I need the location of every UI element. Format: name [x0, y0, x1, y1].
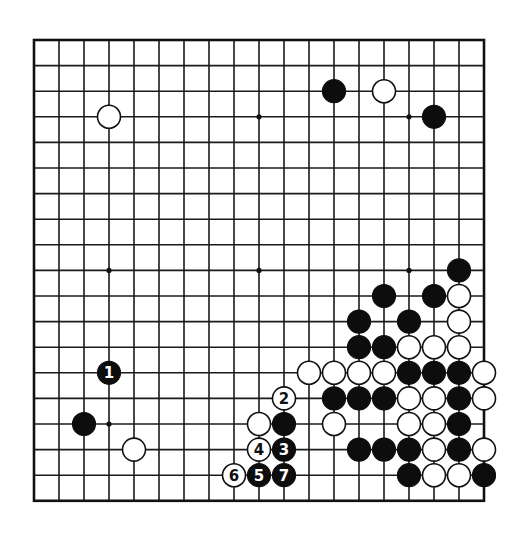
black-stone: [448, 438, 471, 461]
black-stone: [373, 387, 396, 410]
move-number-label: 4: [254, 441, 264, 459]
white-stone: [298, 361, 321, 384]
move-number-label: 1: [104, 364, 114, 382]
black-stone: [348, 387, 371, 410]
white-stone: [373, 361, 396, 384]
star-point: [256, 268, 261, 273]
black-stone: [448, 259, 471, 282]
white-stone: [123, 438, 146, 461]
go-board: 1234567: [0, 0, 531, 539]
black-stone: [398, 438, 421, 461]
move-number-label: 5: [254, 467, 264, 485]
white-stone: [398, 413, 421, 436]
white-stone: [448, 336, 471, 359]
move-number-label: 2: [279, 390, 289, 408]
black-stone: [373, 438, 396, 461]
white-stone: [448, 464, 471, 487]
black-stone: [73, 413, 96, 436]
white-stone: [423, 413, 446, 436]
move-1-black-stone: 1: [98, 361, 121, 384]
black-stone: [398, 464, 421, 487]
star-point: [406, 114, 411, 119]
black-stone: [348, 336, 371, 359]
black-stone: [323, 80, 346, 103]
black-stone: [373, 285, 396, 308]
white-stone: [398, 387, 421, 410]
white-stone: [473, 438, 496, 461]
black-stone: [423, 285, 446, 308]
white-stone: [348, 361, 371, 384]
move-2-white-stone: 2: [273, 387, 296, 410]
white-stone: [448, 310, 471, 333]
white-stone: [373, 80, 396, 103]
star-point: [106, 268, 111, 273]
black-stone: [423, 361, 446, 384]
black-stone: [348, 310, 371, 333]
white-stone: [323, 413, 346, 436]
move-number-label: 6: [229, 467, 239, 485]
black-stone: [348, 438, 371, 461]
white-stone: [248, 413, 271, 436]
white-stone: [423, 387, 446, 410]
move-4-white-stone: 4: [248, 438, 271, 461]
star-point: [256, 114, 261, 119]
white-stone: [473, 387, 496, 410]
black-stone: [373, 336, 396, 359]
black-stone: [448, 361, 471, 384]
black-stone: [448, 413, 471, 436]
white-stone: [423, 336, 446, 359]
black-stone: [273, 413, 296, 436]
move-3-black-stone: 3: [273, 438, 296, 461]
black-stone: [423, 105, 446, 128]
black-stone: [398, 310, 421, 333]
move-5-black-stone: 5: [248, 464, 271, 487]
move-6-white-stone: 6: [223, 464, 246, 487]
white-stone: [423, 438, 446, 461]
white-stone: [423, 464, 446, 487]
go-board-diagram: 1234567: [0, 0, 531, 539]
move-number-label: 3: [279, 441, 289, 459]
black-stone: [323, 387, 346, 410]
white-stone: [98, 105, 121, 128]
move-7-black-stone: 7: [273, 464, 296, 487]
black-stone: [448, 387, 471, 410]
move-number-label: 7: [279, 467, 289, 485]
black-stone: [473, 464, 496, 487]
star-point: [406, 268, 411, 273]
star-point: [106, 421, 111, 426]
black-stone: [398, 361, 421, 384]
white-stone: [323, 361, 346, 384]
white-stone: [448, 285, 471, 308]
white-stone: [473, 361, 496, 384]
white-stone: [398, 336, 421, 359]
